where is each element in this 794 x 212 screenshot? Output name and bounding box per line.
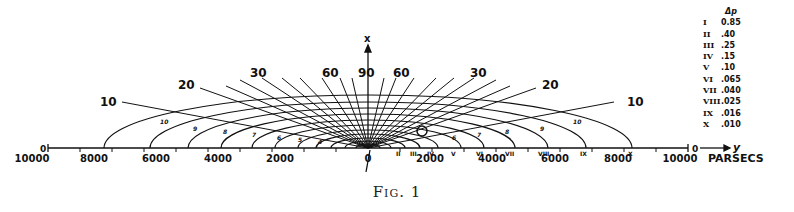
x-axis-label: x: [364, 33, 371, 44]
svg-text:30: 30: [250, 66, 267, 80]
y-tick-labels: 10000 8000 6000 4000 2000 0 2000 4000 60…: [15, 153, 698, 164]
axis-roman-markers: II III IV V VI VII VIII IX X: [396, 150, 633, 157]
svg-text:10000: 10000: [15, 153, 50, 164]
svg-text:7: 7: [252, 131, 257, 138]
svg-text:60: 60: [393, 66, 410, 80]
legend-row: IX.016: [703, 108, 775, 119]
svg-text:III: III: [410, 150, 417, 157]
svg-text:VI: VI: [476, 150, 483, 157]
svg-text:IV: IV: [427, 150, 434, 157]
diagram-svg: 10000 8000 6000 4000 2000 0 2000 4000 60…: [0, 0, 794, 212]
svg-text:2000: 2000: [266, 153, 294, 164]
svg-text:10000: 10000: [663, 153, 698, 164]
svg-text:30: 30: [470, 66, 487, 80]
svg-text:10: 10: [160, 118, 168, 125]
galactic-cross-section-figure: 10000 8000 6000 4000 2000 0 2000 4000 60…: [0, 0, 794, 212]
svg-text:5: 5: [298, 136, 302, 143]
svg-text:V: V: [451, 150, 456, 157]
svg-text:VIII: VIII: [538, 150, 549, 157]
svg-text:10: 10: [100, 95, 117, 109]
svg-text:6: 6: [277, 134, 281, 141]
svg-text:20: 20: [542, 78, 559, 92]
delta-p-legend: Δp I0.85 II.40 III.25 IV.15 V.10 VI.065 …: [703, 6, 775, 130]
svg-text:4: 4: [318, 138, 322, 145]
origin-right-label: 0: [692, 144, 698, 154]
svg-text:X: X: [628, 150, 633, 157]
sun-marker: [417, 126, 427, 136]
svg-text:4000: 4000: [204, 153, 232, 164]
legend-row: II.40: [703, 29, 775, 40]
legend-row: IV.15: [703, 51, 775, 62]
svg-text:6: 6: [452, 134, 456, 141]
svg-text:6000: 6000: [142, 153, 170, 164]
svg-text:0: 0: [365, 153, 372, 164]
svg-text:9: 9: [540, 125, 544, 132]
legend-row: V.10: [703, 62, 775, 73]
svg-text:7: 7: [477, 131, 482, 138]
legend-row: VIII.025: [703, 96, 775, 107]
figure-caption: Fig. 1: [0, 183, 794, 201]
svg-text:IX: IX: [580, 150, 587, 157]
svg-text:VII: VII: [505, 150, 514, 157]
svg-text:90: 90: [358, 66, 375, 80]
svg-text:10: 10: [627, 95, 644, 109]
legend-title: Δp: [703, 6, 775, 17]
legend-row: III.25: [703, 40, 775, 51]
svg-text:8: 8: [223, 128, 227, 135]
legend-row: I0.85: [703, 17, 775, 28]
legend-row: VI.065: [703, 74, 775, 85]
svg-text:60: 60: [322, 66, 339, 80]
svg-text:8: 8: [505, 128, 509, 135]
origin-left-label: 0: [40, 144, 46, 154]
legend-row: VII.040: [703, 85, 775, 96]
svg-text:9: 9: [193, 125, 197, 132]
svg-text:20: 20: [178, 78, 195, 92]
svg-text:10: 10: [573, 118, 581, 125]
svg-text:II: II: [396, 150, 400, 157]
legend-row: X.010: [703, 119, 775, 130]
svg-text:8000: 8000: [80, 153, 108, 164]
y-axis-label: y: [733, 141, 741, 154]
